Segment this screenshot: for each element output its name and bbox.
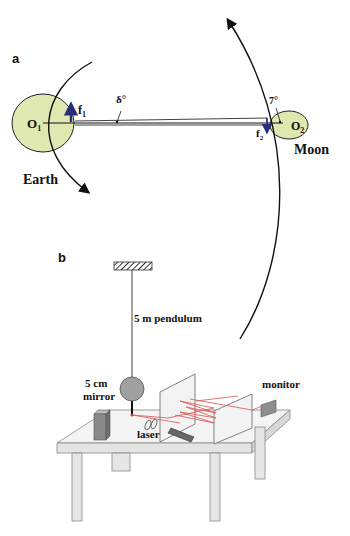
panel-a-label: a (12, 51, 20, 66)
table-front-edge (57, 443, 252, 453)
mirror-label-line1: 5 cm (85, 377, 107, 389)
moon-orbit-arrow (228, 20, 280, 339)
mirror-label-line2: mirror (83, 390, 115, 402)
figure-canvas: a δ° 7° O1 f1 Earth O2 f2 Moon (0, 0, 350, 536)
table-leg-front-left (72, 453, 82, 521)
pendulum-bob (120, 377, 144, 401)
force-f1-label: f1 (78, 103, 86, 119)
ceiling-mount (114, 262, 152, 270)
earth-label: Earth (23, 172, 58, 187)
delta-angle-label: δ° (116, 93, 126, 105)
force-f2-label: f2 (256, 127, 264, 142)
table-leg-front-right (210, 453, 220, 521)
laser-label: laser (137, 428, 160, 440)
moon-angle-label: 7° (269, 95, 278, 106)
monitor-label: monitor (262, 378, 300, 390)
mirror-mount-block (94, 414, 106, 440)
table-leg-back-left (112, 453, 130, 471)
moon-label: Moon (294, 142, 329, 157)
table-leg-back-right (255, 427, 265, 479)
panel-b-label: b (58, 250, 66, 265)
tangent-line (75, 118, 267, 121)
pendulum-label: 5 m pendulum (134, 312, 202, 324)
panel-a: a δ° 7° O1 f1 Earth O2 f2 Moon (12, 20, 329, 339)
